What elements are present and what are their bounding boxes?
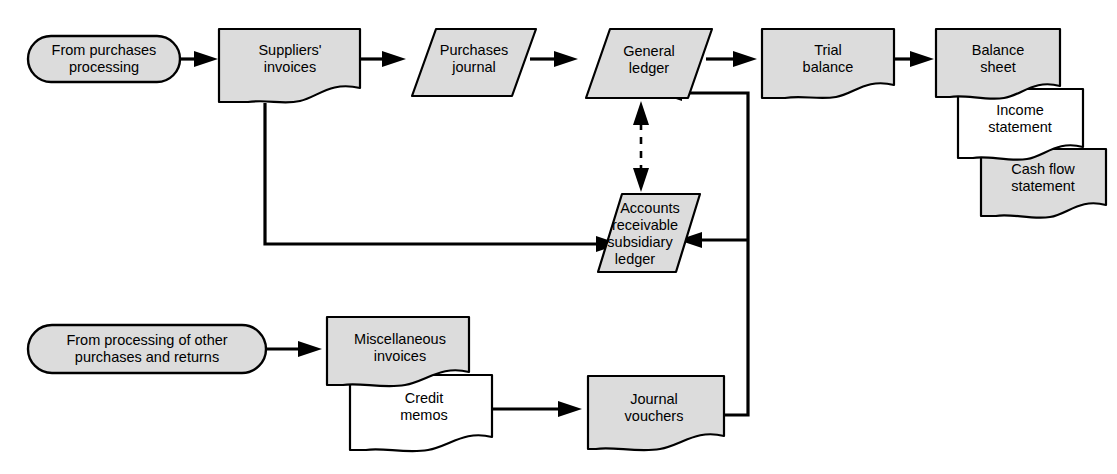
edge-general-ledger-to-trial-balance (706, 51, 757, 67)
arrowhead-icon-up (633, 101, 649, 125)
node-label-line-2: invoices (264, 59, 316, 75)
node-label-line-4: ledger (615, 251, 655, 267)
node-journal-vouchers[interactable]: Journal vouchers (588, 376, 724, 450)
node-label-line-2: invoices (374, 348, 426, 364)
node-accounts-receivable-subsidiary-ledger[interactable]: Accounts receivable subsidiary ledger (598, 194, 700, 272)
node-label-line-2: journal (451, 59, 496, 75)
edge-general-ledger-ar-subsidiary-ledger-posting (633, 101, 649, 192)
edge-credit-memos-to-journal-vouchers (493, 401, 582, 417)
arrowhead-icon (733, 51, 757, 67)
edge-from-other-processing-to-miscellaneous-invoices (267, 341, 322, 357)
arrowhead-icon (382, 51, 406, 67)
node-label-line-1: Journal (630, 391, 678, 407)
node-label-line-1: General (623, 43, 675, 59)
node-suppliers-invoices[interactable]: Suppliers' invoices (219, 29, 360, 102)
node-label-line-3: subsidiary (607, 234, 673, 250)
flowchart-svg: From purchases processing Suppliers' inv… (0, 0, 1117, 474)
node-label-line-2: balance (803, 59, 854, 75)
node-label-line-2: receivable (612, 217, 678, 233)
arrowhead-icon (558, 401, 582, 417)
arrowhead-icon-down (633, 168, 649, 192)
arrowhead-icon (298, 341, 322, 357)
node-label-line-2: statement (1011, 178, 1075, 194)
node-label-line-2: vouchers (625, 408, 684, 424)
node-label-line-2: processing (69, 59, 139, 75)
edge-from-purchases-to-suppliers-invoices (181, 51, 218, 67)
node-label-line-1: Trial (814, 42, 842, 58)
edge-trial-balance-to-balance-sheet (893, 51, 934, 67)
node-purchases-journal[interactable]: Purchases journal (412, 29, 536, 96)
node-label-line-2: memos (400, 407, 448, 423)
arrowhead-icon (194, 51, 218, 67)
node-from-processing-of-other-purchases-and-returns[interactable]: From processing of other purchases and r… (28, 325, 266, 373)
node-label-line-1: Suppliers' (258, 42, 321, 58)
node-label-line-1: Purchases (440, 42, 509, 58)
node-label-line-1: From purchases (52, 42, 157, 58)
node-label-line-1: From processing of other (66, 332, 227, 348)
node-label-line-2: sheet (980, 59, 1015, 75)
node-label-line-2: statement (988, 119, 1052, 135)
node-label-line-1: Cash flow (1011, 161, 1075, 177)
node-label-line-1: Accounts (620, 200, 680, 216)
edge-suppliers-invoices-to-purchases-journal (361, 51, 406, 67)
node-label-line-2: purchases and returns (75, 349, 219, 365)
connector-line (265, 103, 598, 244)
node-label-line-1: Credit (405, 390, 444, 406)
edge-purchases-journal-to-general-ledger (530, 51, 578, 67)
flowchart-canvas: From purchases processing Suppliers' inv… (0, 0, 1117, 474)
connector-line (680, 93, 748, 415)
node-label-line-1: Balance (972, 42, 1024, 58)
edge-suppliers-invoices-to-ar-subsidiary-ledger (265, 103, 620, 252)
node-from-purchases-processing[interactable]: From purchases processing (28, 36, 180, 82)
node-credit-memos[interactable]: Credit memos (350, 375, 492, 451)
node-general-ledger[interactable]: General ledger (586, 29, 712, 98)
node-label-line-2: ledger (629, 60, 669, 76)
node-trial-balance[interactable]: Trial balance (762, 29, 894, 98)
node-label-line-1: Income (996, 102, 1044, 118)
node-label-line-1: Miscellaneous (354, 331, 446, 347)
arrowhead-icon (554, 51, 578, 67)
arrowhead-icon (910, 51, 934, 67)
